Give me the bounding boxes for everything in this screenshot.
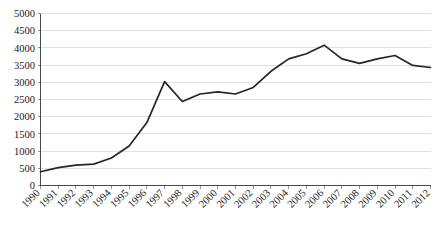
x-tick-label: 2008 [338,187,361,210]
line-chart: 0500100015002000250030003500400045005000… [0,0,439,236]
data-series [41,45,431,172]
y-tick-label: 3000 [14,77,35,88]
x-tick-label: 1998 [161,187,184,210]
y-tick-label: 5000 [14,8,35,19]
x-tick-label: 2006 [303,187,326,210]
x-tick-label: 2005 [285,187,308,210]
y-tick-label: 4000 [14,43,35,54]
x-tick-label: 1993 [72,187,95,210]
x-tick-label: 2009 [356,187,379,210]
x-tick-label: 1992 [55,187,78,210]
x-tick-label: 2000 [197,187,220,210]
y-tick-label: 1500 [14,129,35,140]
chart-canvas: 0500100015002000250030003500400045005000… [0,0,439,236]
y-tick-label: 3500 [14,60,35,71]
y-tick-label: 1000 [14,146,35,157]
x-tick-label: 2003 [250,187,273,210]
x-tick-label: 2007 [321,187,344,210]
x-tick-label: 1990 [19,187,42,210]
x-tick-label: 2011 [392,187,414,209]
y-tick-label: 500 [19,163,35,174]
x-tick-label: 2010 [374,187,397,210]
y-tick-label: 2000 [14,111,35,122]
x-tick-label: 1994 [90,187,113,210]
x-tick-label: 2002 [232,187,255,210]
x-tick-label: 1997 [143,187,166,210]
x-tick-label: 1996 [126,187,149,210]
x-tick-label: 2001 [214,187,237,210]
series-line-1 [41,45,431,172]
y-tick-label: 4500 [14,25,35,36]
x-tick-label: 2004 [267,187,290,210]
x-axis-tick-labels: 1990199119921993199419951996199719981999… [19,187,432,210]
x-tick-label: 2012 [409,187,432,210]
y-tick-label: 2500 [14,94,35,105]
y-axis-tick-labels: 0500100015002000250030003500400045005000 [14,8,35,191]
x-tick-label: 1991 [37,187,60,210]
axis-tickmarks [38,14,431,189]
x-tick-label: 1995 [108,187,131,210]
gridlines [41,14,431,169]
x-tick-label: 1999 [179,187,202,210]
